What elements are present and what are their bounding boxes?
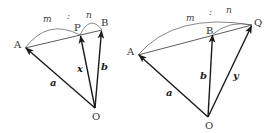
segment-aq xyxy=(138,25,252,55)
point-label-q: Q xyxy=(254,17,262,28)
figure-external-division: A B Q O a b y m : n xyxy=(126,5,262,131)
ratio-n: n xyxy=(226,5,232,15)
vector-label-b: b xyxy=(200,70,207,81)
vector-label-y: y xyxy=(232,70,240,81)
vector-a xyxy=(139,55,208,117)
point-label-o: O xyxy=(92,111,100,122)
vector-division-diagram: A P B O a x b m : n A B Q O a b y m : n xyxy=(0,0,271,133)
ratio-sep: : xyxy=(67,11,70,21)
segment-ab xyxy=(25,30,102,48)
vector-y xyxy=(208,26,252,117)
arc-n xyxy=(213,24,252,34)
vector-b xyxy=(208,35,213,117)
ratio-m: m xyxy=(43,14,52,24)
point-label-b: B xyxy=(101,17,108,28)
ratio-n: n xyxy=(86,10,92,20)
vector-label-x: x xyxy=(76,63,84,74)
point-label-b: B xyxy=(206,25,213,36)
arc-m xyxy=(25,29,80,48)
point-label-o: O xyxy=(205,120,213,131)
vector-label-a: a xyxy=(166,87,172,98)
point-label-a: A xyxy=(126,46,135,57)
ratio-sep: : xyxy=(209,7,212,17)
vector-label-a: a xyxy=(50,77,56,88)
figure-internal-division: A P B O a x b m : n xyxy=(13,10,108,122)
ratio-m: m xyxy=(186,13,195,23)
point-label-p: P xyxy=(74,22,81,33)
vector-label-b: b xyxy=(101,61,108,72)
arc-n xyxy=(80,23,102,35)
arc-m xyxy=(138,22,252,55)
point-label-a: A xyxy=(13,39,22,50)
